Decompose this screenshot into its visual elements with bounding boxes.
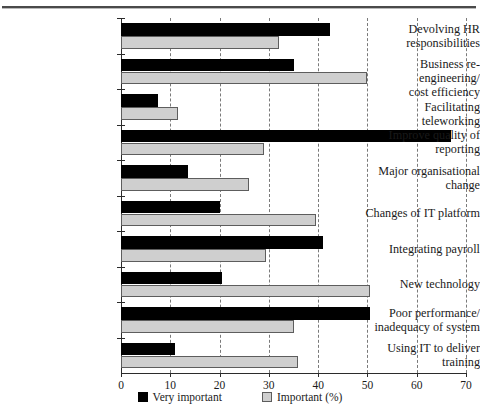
bar-important [121, 143, 264, 156]
category-label: Changes of IT platform [364, 206, 480, 220]
x-tick-label: 10 [165, 379, 177, 391]
bar-important [121, 107, 178, 120]
legend-item-important: Important (%) [262, 391, 342, 403]
x-tick [170, 373, 171, 377]
category-tick [117, 54, 125, 55]
category-axis-line [121, 373, 466, 374]
bar-important [121, 214, 316, 227]
bar-important [121, 249, 266, 262]
x-tick-label: 60 [411, 379, 423, 391]
category-tick [117, 267, 125, 268]
bar-very-important [121, 236, 323, 249]
legend-label-important: Important (%) [277, 391, 342, 403]
category-label-line: Devolving HR [364, 22, 480, 36]
x-tick [220, 373, 221, 377]
x-tick-label: 70 [460, 379, 472, 391]
bar-important [121, 178, 249, 191]
bar-important [121, 356, 298, 369]
bar-very-important [121, 94, 158, 107]
category-label-line: Facilitating teleworking [364, 100, 480, 128]
grey-square-icon [262, 392, 272, 402]
category-label-line: Integrating payroll [364, 242, 480, 256]
category-tick [117, 338, 125, 339]
x-tick [269, 373, 270, 377]
bar-very-important [121, 165, 188, 178]
category-label: Integrating payroll [364, 242, 480, 256]
page-top-rule [2, 6, 476, 8]
category-tick [117, 196, 125, 197]
x-tick-label: 50 [362, 379, 374, 391]
category-label-line: change [364, 178, 480, 192]
x-tick-label: 30 [263, 379, 275, 391]
legend-label-very-important: Very important [153, 391, 222, 403]
category-label-line: Major organisational [364, 164, 480, 178]
bar-very-important [121, 307, 370, 320]
category-label: New technology [364, 277, 480, 291]
category-label-line: Improve quality of [364, 128, 480, 142]
x-tick [367, 373, 368, 377]
legend-item-very-important: Very important [138, 391, 222, 403]
category-label-line: Changes of IT platform [364, 206, 480, 220]
category-tick [117, 160, 125, 161]
category-label: Using IT to delivertraining [364, 341, 480, 369]
category-label-line: inadequacy of system [364, 320, 480, 334]
category-label-line: Using IT to deliver [364, 341, 480, 355]
black-square-icon [138, 392, 148, 402]
category-label: Poor performance/inadequacy of system [364, 306, 480, 334]
bar-very-important [121, 272, 222, 285]
x-tick [466, 373, 467, 377]
category-label-line: reporting [364, 142, 480, 156]
category-tick [117, 231, 125, 232]
bar-chart: 010203040506070 Devolving HRresponsibili… [0, 0, 480, 419]
x-tick [121, 373, 122, 377]
category-label: Improve quality ofreporting [364, 128, 480, 156]
category-label-line: cost efficiency [364, 85, 480, 99]
category-label-line: responsibilities [364, 36, 480, 50]
category-label: Devolving HRresponsibilities [364, 22, 480, 50]
x-tick [417, 373, 418, 377]
bar-important [121, 285, 370, 298]
bar-very-important [121, 343, 175, 356]
category-label-line: New technology [364, 277, 480, 291]
category-label-line: Business re-engineering/ [364, 57, 480, 85]
bar-very-important [121, 201, 220, 214]
x-tick-label: 20 [214, 379, 226, 391]
bar-very-important [121, 23, 330, 36]
category-label: Business re-engineering/cost efficiency [364, 57, 480, 99]
bar-important [121, 320, 294, 333]
chart-legend: Very important Important (%) [0, 391, 480, 403]
category-label-line: Poor performance/ [364, 306, 480, 320]
x-tick [318, 373, 319, 377]
x-tick-label: 0 [118, 379, 124, 391]
x-tick-label: 40 [312, 379, 324, 391]
bar-very-important [121, 59, 294, 72]
category-label: Facilitating teleworking [364, 100, 480, 128]
category-tick [117, 89, 125, 90]
bar-important [121, 36, 279, 49]
category-tick [117, 302, 125, 303]
bar-important [121, 72, 367, 85]
category-label-line: training [364, 355, 480, 369]
category-tick [117, 125, 125, 126]
category-label: Major organisationalchange [364, 164, 480, 192]
category-tick [117, 18, 125, 19]
